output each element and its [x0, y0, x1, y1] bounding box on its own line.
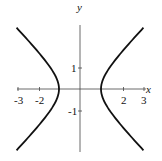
hyperbola-plot: x y -3 -2 2 3 1 -1 [0, 0, 162, 161]
y-tick-label: -1 [68, 105, 77, 117]
x-tick-label: -2 [35, 94, 44, 106]
x-tick-label: 3 [141, 94, 147, 106]
labels: x y -3 -2 2 3 1 -1 [14, 1, 151, 117]
y-axis-label: y [76, 1, 82, 13]
x-tick-label: -3 [14, 94, 24, 106]
y-tick-label: 1 [71, 62, 77, 74]
x-tick-label: 2 [121, 94, 127, 106]
